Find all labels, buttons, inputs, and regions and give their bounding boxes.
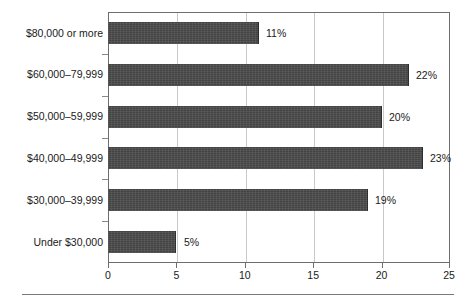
category-tick: [102, 96, 108, 97]
xtick-5: [176, 263, 177, 268]
category-tick: [102, 179, 108, 180]
category-tick: [102, 221, 108, 222]
xtick-label-15: 15: [307, 270, 319, 281]
bar-row: 19%: [108, 179, 450, 221]
bar-80000-or-more: [108, 22, 259, 44]
bar-value-label: 5%: [184, 237, 199, 248]
bar-row: 5%: [108, 221, 450, 263]
xtick-label-10: 10: [239, 270, 251, 281]
category-tick: [102, 138, 108, 139]
category-label-50000-59999: $50,000–59,999: [0, 96, 103, 138]
bottom-divider-rule: [22, 294, 454, 295]
bar-row: 23%: [108, 138, 450, 180]
xtick-label-0: 0: [105, 270, 111, 281]
category-label-60000-79999: $60,000–79,999: [0, 54, 103, 96]
bar-row: 20%: [108, 96, 450, 138]
bar-row: 11%: [108, 12, 450, 54]
category-label-30000-39999: $30,000–39,999: [0, 179, 103, 221]
bar-value-label: 20%: [389, 111, 410, 122]
xtick-label-5: 5: [173, 270, 179, 281]
xtick-20: [382, 263, 383, 268]
xtick-0: [108, 263, 109, 268]
bar-under-30000: [108, 231, 176, 253]
category-labels: $80,000 or more $60,000–79,999 $50,000–5…: [0, 12, 103, 263]
xtick-label-25: 25: [443, 270, 455, 281]
xtick-25: [449, 263, 450, 268]
bar-40000-49999: [108, 147, 423, 169]
bars-layer: 11% 22% 20% 23% 19% 5%: [108, 12, 450, 263]
bar-60000-79999: [108, 64, 409, 86]
bar-value-label: 19%: [375, 195, 396, 206]
bar-value-label: 11%: [266, 28, 286, 39]
bar-50000-59999: [108, 106, 382, 128]
horizontal-bar-chart: 11% 22% 20% 23% 19% 5% $80,000 or more $…: [0, 0, 475, 301]
bar-row: 22%: [108, 54, 450, 96]
bar-30000-39999: [108, 189, 368, 211]
category-label-under-30000: Under $30,000: [0, 221, 103, 263]
xtick-label-20: 20: [376, 270, 388, 281]
xtick-15: [313, 263, 314, 268]
xtick-10: [245, 263, 246, 268]
bar-value-label: 22%: [416, 69, 437, 80]
category-tick: [102, 54, 108, 55]
category-label-80000-or-more: $80,000 or more: [0, 12, 103, 54]
category-label-40000-49999: $40,000–49,999: [0, 138, 103, 180]
bar-value-label: 23%: [430, 153, 451, 164]
